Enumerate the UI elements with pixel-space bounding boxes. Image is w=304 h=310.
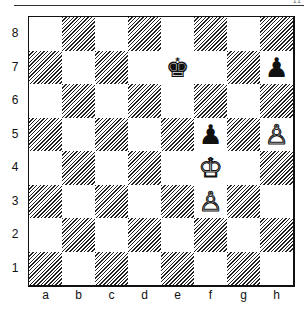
square-f6[interactable] bbox=[194, 84, 227, 118]
file-label-g: g bbox=[227, 288, 260, 302]
file-label-f: f bbox=[194, 288, 227, 302]
square-g8[interactable] bbox=[227, 17, 260, 51]
square-h4[interactable] bbox=[260, 151, 293, 185]
rank-label-7: 7 bbox=[9, 60, 21, 74]
square-d2[interactable] bbox=[128, 218, 161, 252]
top-rule bbox=[14, 5, 304, 6]
rank-label-1: 1 bbox=[9, 261, 21, 275]
square-e3[interactable] bbox=[161, 185, 194, 219]
square-a3[interactable] bbox=[29, 185, 62, 219]
square-b3[interactable] bbox=[62, 185, 95, 219]
square-b2[interactable] bbox=[62, 218, 95, 252]
square-a7[interactable] bbox=[29, 51, 62, 85]
square-e2[interactable] bbox=[161, 218, 194, 252]
square-e7[interactable]: ♚ bbox=[161, 51, 194, 85]
square-d6[interactable] bbox=[128, 84, 161, 118]
square-c4[interactable] bbox=[95, 151, 128, 185]
square-g1[interactable] bbox=[227, 252, 260, 286]
file-label-b: b bbox=[62, 288, 95, 302]
square-g7[interactable] bbox=[227, 51, 260, 85]
square-h5[interactable]: ♙ bbox=[260, 118, 293, 152]
white-king-icon[interactable]: ♔ bbox=[198, 154, 222, 181]
square-b4[interactable] bbox=[62, 151, 95, 185]
square-f8[interactable] bbox=[194, 17, 227, 51]
square-h7[interactable]: ♟ bbox=[260, 51, 293, 85]
square-a2[interactable] bbox=[29, 218, 62, 252]
file-label-e: e bbox=[161, 288, 194, 302]
rank-label-8: 8 bbox=[9, 26, 21, 40]
black-pawn-icon[interactable]: ♟ bbox=[264, 54, 288, 81]
square-g5[interactable] bbox=[227, 118, 260, 152]
square-b5[interactable] bbox=[62, 118, 95, 152]
square-d4[interactable] bbox=[128, 151, 161, 185]
square-c1[interactable] bbox=[95, 252, 128, 286]
square-e6[interactable] bbox=[161, 84, 194, 118]
square-a8[interactable] bbox=[29, 17, 62, 51]
square-f7[interactable] bbox=[194, 51, 227, 85]
square-d8[interactable] bbox=[128, 17, 161, 51]
black-pawn-icon[interactable]: ♟ bbox=[198, 121, 222, 148]
page-number-fragment: 11 bbox=[293, 0, 302, 4]
rank-label-3: 3 bbox=[9, 194, 21, 208]
square-a4[interactable] bbox=[29, 151, 62, 185]
square-b8[interactable] bbox=[62, 17, 95, 51]
square-g2[interactable] bbox=[227, 218, 260, 252]
square-c3[interactable] bbox=[95, 185, 128, 219]
square-f2[interactable] bbox=[194, 218, 227, 252]
square-c7[interactable] bbox=[95, 51, 128, 85]
square-f4[interactable]: ♔ bbox=[194, 151, 227, 185]
file-label-c: c bbox=[95, 288, 128, 302]
file-label-d: d bbox=[128, 288, 161, 302]
square-b7[interactable] bbox=[62, 51, 95, 85]
rank-label-5: 5 bbox=[9, 127, 21, 141]
black-king-icon[interactable]: ♚ bbox=[165, 54, 189, 81]
square-h1[interactable] bbox=[260, 252, 293, 286]
square-c5[interactable] bbox=[95, 118, 128, 152]
square-h6[interactable] bbox=[260, 84, 293, 118]
square-d7[interactable] bbox=[128, 51, 161, 85]
square-c8[interactable] bbox=[95, 17, 128, 51]
square-g6[interactable] bbox=[227, 84, 260, 118]
square-e5[interactable] bbox=[161, 118, 194, 152]
square-h8[interactable] bbox=[260, 17, 293, 51]
square-d3[interactable] bbox=[128, 185, 161, 219]
square-a6[interactable] bbox=[29, 84, 62, 118]
square-e8[interactable] bbox=[161, 17, 194, 51]
square-b6[interactable] bbox=[62, 84, 95, 118]
square-g4[interactable] bbox=[227, 151, 260, 185]
rank-label-2: 2 bbox=[9, 227, 21, 241]
square-h3[interactable] bbox=[260, 185, 293, 219]
square-a1[interactable] bbox=[29, 252, 62, 286]
rank-label-4: 4 bbox=[9, 160, 21, 174]
file-label-h: h bbox=[260, 288, 293, 302]
square-f5[interactable]: ♟ bbox=[194, 118, 227, 152]
square-c6[interactable] bbox=[95, 84, 128, 118]
square-a5[interactable] bbox=[29, 118, 62, 152]
square-f3[interactable]: ♙ bbox=[194, 185, 227, 219]
rank-label-6: 6 bbox=[9, 93, 21, 107]
white-pawn-icon[interactable]: ♙ bbox=[264, 121, 288, 148]
square-g3[interactable] bbox=[227, 185, 260, 219]
square-e4[interactable] bbox=[161, 151, 194, 185]
chess-board: ♚♟♟♙♔♙ bbox=[28, 16, 295, 287]
file-label-a: a bbox=[29, 288, 62, 302]
square-c2[interactable] bbox=[95, 218, 128, 252]
square-e1[interactable] bbox=[161, 252, 194, 286]
square-d5[interactable] bbox=[128, 118, 161, 152]
square-h2[interactable] bbox=[260, 218, 293, 252]
square-f1[interactable] bbox=[194, 252, 227, 286]
square-d1[interactable] bbox=[128, 252, 161, 286]
square-b1[interactable] bbox=[62, 252, 95, 286]
white-pawn-icon[interactable]: ♙ bbox=[198, 188, 222, 215]
